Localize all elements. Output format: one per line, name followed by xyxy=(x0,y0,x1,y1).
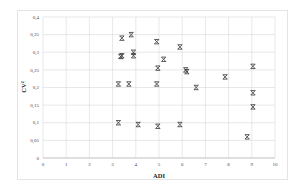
y-tick-label: 0,1 xyxy=(33,120,40,126)
asterisk-marker-icon xyxy=(120,36,124,40)
asterisk-marker-icon xyxy=(178,45,182,49)
x-tick-label: 7 xyxy=(204,162,207,167)
y-tick-label: 0,05 xyxy=(30,138,39,144)
scatter-chart: 00,050,10,150,20,250,30,350,4 0123456789… xyxy=(0,0,297,188)
x-tick-label: 1 xyxy=(65,162,68,167)
asterisk-marker-icon xyxy=(154,39,158,43)
x-tick-label: 2 xyxy=(88,162,91,167)
asterisk-marker-icon xyxy=(223,75,227,79)
asterisk-marker-icon xyxy=(154,82,158,86)
asterisk-marker-icon xyxy=(116,82,120,86)
y-tick-label: 0,2 xyxy=(33,85,40,91)
grid-lines xyxy=(43,17,275,158)
x-tick-label: 5 xyxy=(158,162,161,167)
asterisk-marker-icon xyxy=(127,82,131,86)
y-axis-ticks: 00,050,10,150,20,250,30,350,4 xyxy=(30,15,39,161)
x-axis-ticks: 012345678910 xyxy=(42,162,278,167)
data-points xyxy=(116,32,255,139)
asterisk-marker-icon xyxy=(245,135,249,139)
y-tick-label: 0,4 xyxy=(33,15,40,21)
x-axis-label: ADI xyxy=(153,172,165,179)
asterisk-marker-icon xyxy=(251,64,255,68)
x-tick-label: 8 xyxy=(227,162,230,167)
asterisk-marker-icon xyxy=(251,91,255,95)
y-axis-label: CV² xyxy=(20,81,27,92)
asterisk-marker-icon xyxy=(156,124,160,128)
y-tick-label: 0,35 xyxy=(30,32,39,38)
x-tick-label: 3 xyxy=(111,162,114,167)
x-tick-label: 10 xyxy=(273,162,279,167)
asterisk-marker-icon xyxy=(161,57,165,61)
y-tick-label: 0 xyxy=(37,156,40,161)
x-tick-label: 6 xyxy=(181,162,184,167)
y-tick-label: 0,15 xyxy=(30,103,39,109)
y-tick-label: 0,25 xyxy=(30,68,39,74)
y-tick-label: 0,3 xyxy=(33,50,40,56)
x-tick-label: 9 xyxy=(251,162,254,167)
x-tick-label: 0 xyxy=(42,162,45,167)
x-tick-label: 4 xyxy=(135,162,138,167)
